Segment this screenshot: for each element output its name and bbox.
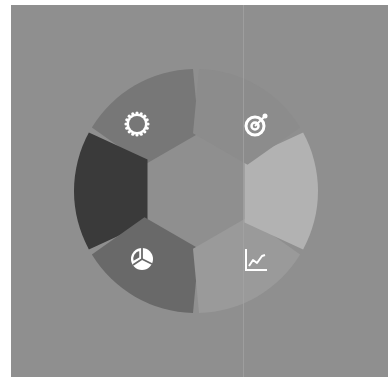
guide-line <box>243 5 244 377</box>
pie-chart-icon <box>129 246 155 272</box>
line-chart-icon <box>243 247 269 273</box>
cycle-ring <box>0 0 388 383</box>
gear-icon <box>124 111 150 137</box>
target-icon <box>244 111 270 137</box>
